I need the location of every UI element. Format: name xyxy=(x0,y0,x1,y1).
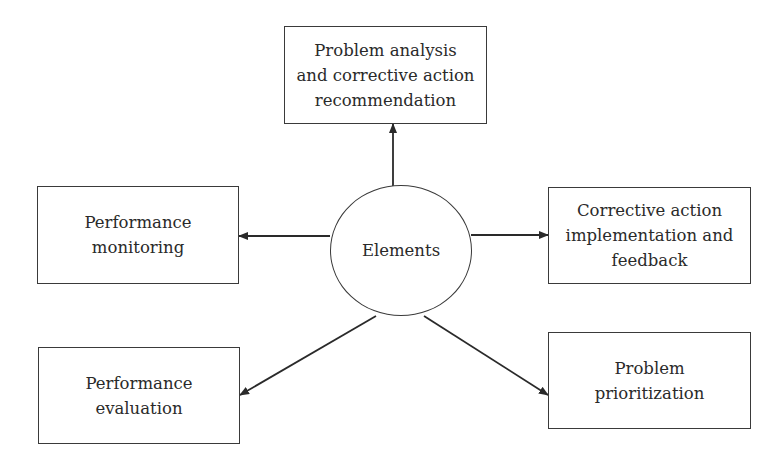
node-label-line: Corrective action xyxy=(566,198,734,223)
node-label-line: monitoring xyxy=(84,235,191,260)
node-label-line: Problem analysis xyxy=(296,38,474,63)
center-node-elements: Elements xyxy=(330,185,472,316)
center-node-label: Elements xyxy=(362,241,440,260)
elements-diagram: Elements Problem analysis and corrective… xyxy=(0,0,781,469)
node-label-line: and corrective action xyxy=(296,63,474,88)
arrow-to-bottom-left xyxy=(240,316,376,395)
node-label-line: recommendation xyxy=(296,88,474,113)
node-label-line: implementation and xyxy=(566,223,734,248)
node-problem-analysis: Problem analysis and corrective action r… xyxy=(284,26,487,124)
node-label-line: feedback xyxy=(566,248,734,273)
node-problem-prioritization: Problem prioritization xyxy=(548,332,751,429)
node-label-line: prioritization xyxy=(595,381,705,406)
node-label-line: Performance xyxy=(85,371,192,396)
arrow-to-bottom-right xyxy=(424,316,548,395)
node-label-line: Problem xyxy=(595,356,705,381)
node-label-line: evaluation xyxy=(85,396,192,421)
node-performance-monitoring: Performance monitoring xyxy=(37,186,239,284)
node-corrective-action-implementation: Corrective action implementation and fee… xyxy=(548,187,751,284)
node-label-line: Performance xyxy=(84,210,191,235)
node-performance-evaluation: Performance evaluation xyxy=(38,347,240,444)
